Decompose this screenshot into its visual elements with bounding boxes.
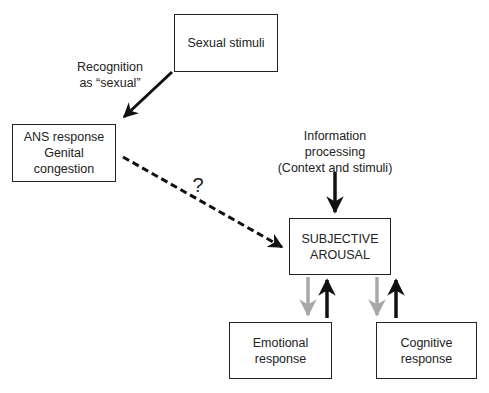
node-text: response — [400, 351, 452, 367]
node-cognitive-response: Cognitive response — [376, 322, 477, 379]
node-sexual-stimuli: Sexual stimuli — [174, 14, 278, 72]
node-text: Sexual stimuli — [187, 35, 264, 51]
node-ans-response: ANS response Genital congestion — [12, 124, 116, 182]
node-text: congestion — [24, 161, 105, 177]
label-text: (Context and stimuli) — [275, 160, 395, 176]
label-recognition: Recognition as “sexual” — [64, 59, 156, 91]
node-text: Cognitive — [400, 335, 452, 351]
arrow-ans-to-subjective-dashed — [123, 157, 282, 247]
node-emotional-response: Emotional response — [229, 322, 332, 379]
node-text: SUBJECTIVE — [301, 231, 378, 247]
label-text: Information — [275, 128, 395, 144]
node-text: AROUSAL — [301, 247, 378, 263]
node-text: Emotional — [253, 335, 309, 351]
node-subjective-arousal: SUBJECTIVE AROUSAL — [289, 218, 391, 275]
label-text: processing — [275, 144, 395, 160]
node-text: response — [253, 351, 309, 367]
label-question-mark: ? — [188, 174, 208, 196]
node-text: Genital — [24, 145, 105, 161]
node-text: ANS response — [24, 129, 105, 145]
label-information-processing: Information processing (Context and stim… — [275, 128, 395, 176]
label-text: Recognition — [64, 59, 156, 75]
label-text: as “sexual” — [64, 75, 156, 91]
